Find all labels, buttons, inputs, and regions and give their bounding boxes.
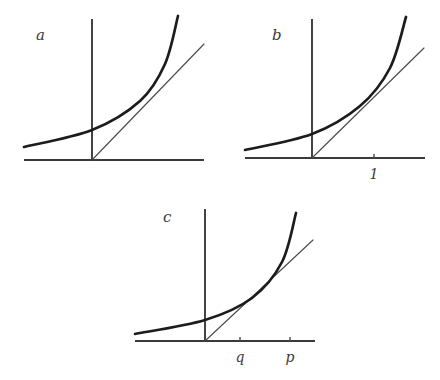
panel-a: a: [24, 16, 204, 161]
panel-c: qpc: [135, 208, 315, 365]
panel-b-exponential-curve: [245, 17, 406, 150]
panel-b: 1b: [245, 17, 425, 182]
panel-a-ray-from-origin: [92, 44, 204, 160]
panel-b-tick-label-1: 1: [370, 166, 379, 182]
panels-group: a1bqpc: [24, 16, 425, 365]
panel-b-tangent-from-origin: [312, 48, 424, 158]
panel-c-exponential-curve: [135, 213, 296, 334]
panel-a-exponential-curve: [24, 16, 178, 147]
panel-label-c: c: [163, 208, 172, 226]
figure-root: a1bqpc: [0, 0, 440, 380]
exponential-curves-figure: a1bqpc: [0, 0, 440, 380]
panel-c-tick-label-p: p: [286, 349, 295, 365]
panel-c-tick-label-q: q: [236, 349, 245, 365]
panel-label-b: b: [272, 26, 282, 44]
panel-label-a: a: [36, 26, 45, 44]
